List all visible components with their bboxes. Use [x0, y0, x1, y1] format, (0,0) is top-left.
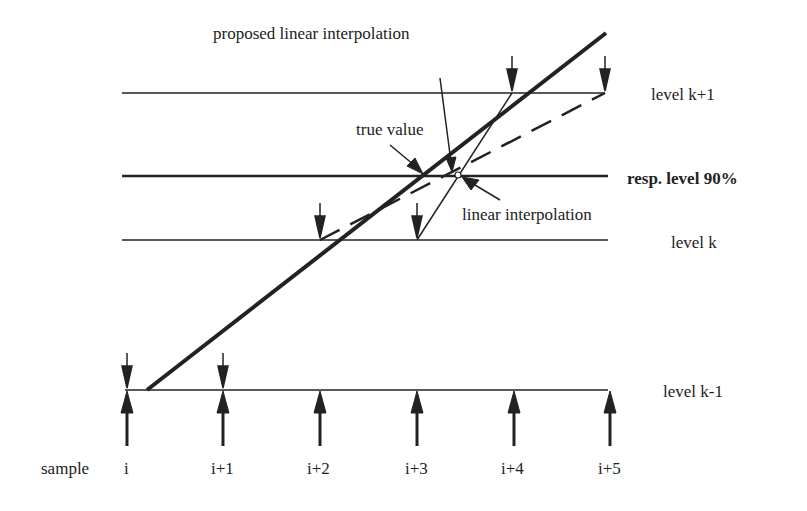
sample-tick-label: i+1 [211, 460, 234, 477]
proposed-pointer [440, 78, 451, 162]
sample-tick-label: i+5 [598, 460, 621, 477]
linear-interpolation-label: linear interpolation [462, 206, 592, 223]
level-k1-label: level k+1 [651, 86, 715, 103]
level-km1-label: level k-1 [663, 383, 723, 400]
diagram-canvas [0, 0, 807, 511]
level-k-label: level k [671, 234, 717, 251]
sample-arrows [121, 391, 616, 446]
true-value-label: true value [356, 121, 424, 138]
proposed-interpolation-label: proposed linear interpolation [213, 25, 409, 42]
sample-label: sample [41, 460, 89, 477]
sample-tick-label: i [124, 460, 129, 477]
linear-pointer [475, 185, 500, 200]
resp-level-label: resp. level 90% [627, 170, 738, 187]
sample-tick-label: i+4 [501, 460, 524, 477]
sample-tick-label: i+2 [307, 460, 330, 477]
sample-tick-label: i+3 [405, 460, 428, 477]
